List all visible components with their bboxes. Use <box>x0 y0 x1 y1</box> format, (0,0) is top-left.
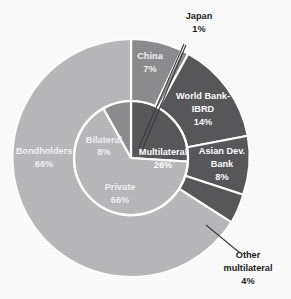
label-bondholders-name: Bondholders <box>16 146 73 156</box>
label-world-bank-ibrd-name-1: World Bank- <box>176 91 230 101</box>
label-bilateral-name: Bilateral <box>86 135 122 145</box>
label-china-value: 7% <box>143 64 156 74</box>
label-other-multilateral-name-2: multilateral <box>223 263 272 273</box>
pie-chart-figure: Japan 1% China 7% World Bank- IBRD 14% A… <box>0 0 291 299</box>
label-asian-dev-bank-value: 8% <box>215 172 228 182</box>
label-japan-value: 1% <box>192 24 205 34</box>
label-bondholders-value: 66% <box>35 159 53 169</box>
inner-ring-slices <box>74 101 188 215</box>
label-other-multilateral-value: 4% <box>241 276 254 286</box>
label-bilateral-value: 8% <box>97 147 110 157</box>
label-china-name: China <box>137 51 163 61</box>
label-private-value: 66% <box>111 195 129 205</box>
label-asian-dev-bank-name-1: Asian Dev. <box>199 146 245 156</box>
pie-chart-canvas: Japan 1% China 7% World Bank- IBRD 14% A… <box>0 0 291 299</box>
label-asian-dev-bank-name-2: Bank <box>211 159 234 169</box>
label-world-bank-ibrd-value: 14% <box>194 117 212 127</box>
label-multilateral-value: 26% <box>154 160 172 170</box>
label-private-name: Private <box>105 182 136 192</box>
label-multilateral-name: Multilateral <box>139 147 188 157</box>
label-world-bank-ibrd-name-2: IBRD <box>192 104 215 114</box>
label-japan-name: Japan <box>186 11 213 21</box>
label-other-multilateral-name-1: Other <box>236 250 261 260</box>
